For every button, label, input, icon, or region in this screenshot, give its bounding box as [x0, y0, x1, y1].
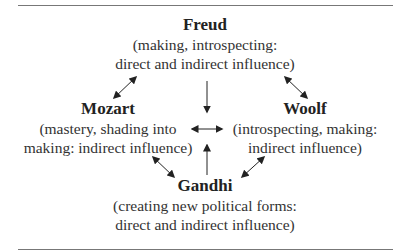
arrow-mozart-gandhi	[153, 157, 174, 177]
arrow-woolf-gandhi	[242, 157, 264, 177]
arrows-layer	[0, 0, 403, 250]
arrow-freud-woolf	[285, 77, 307, 98]
arrow-freud-mozart	[114, 77, 136, 98]
